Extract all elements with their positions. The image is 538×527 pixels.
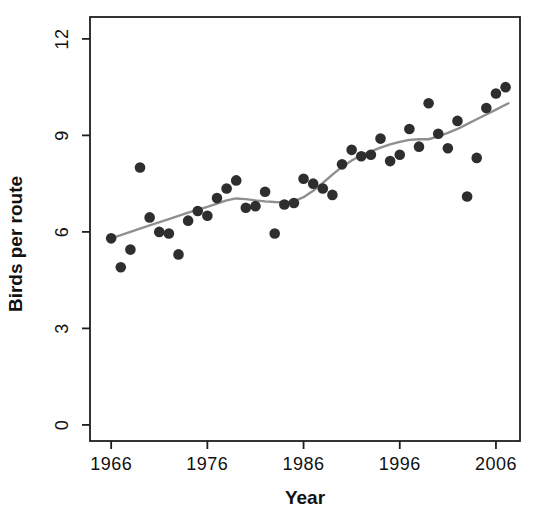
plot-frame	[90, 17, 520, 441]
data-point	[144, 212, 155, 223]
data-points	[106, 82, 511, 273]
data-point	[183, 215, 194, 226]
data-point	[289, 198, 300, 209]
data-point	[202, 211, 213, 222]
data-point	[394, 149, 405, 160]
y-axis-title: Birds per route	[5, 176, 26, 312]
data-point	[212, 193, 223, 204]
data-point	[269, 228, 280, 239]
data-point	[115, 262, 126, 273]
data-point	[366, 149, 377, 160]
y-axis: 036912	[52, 28, 90, 430]
data-point	[491, 88, 502, 99]
data-point	[471, 153, 482, 164]
data-point	[135, 162, 146, 173]
data-point	[241, 202, 252, 213]
data-point	[375, 133, 386, 144]
trend-line	[111, 103, 508, 238]
data-point	[414, 141, 425, 152]
data-point	[154, 227, 165, 238]
y-tick-label: 12	[52, 28, 72, 49]
x-tick-label: 1966	[90, 454, 132, 474]
x-tick-label: 2006	[475, 454, 517, 474]
data-point	[231, 175, 242, 186]
y-tick-label: 3	[52, 323, 72, 334]
data-point	[433, 128, 444, 139]
data-point	[298, 174, 309, 185]
x-axis-title: Year	[285, 487, 326, 508]
data-point	[385, 156, 396, 167]
data-point	[192, 206, 203, 217]
data-point	[356, 151, 367, 162]
data-point	[221, 183, 232, 194]
data-point	[327, 190, 338, 201]
bird-abundance-figure: 19661976198619962006 036912 Year Birds p…	[0, 0, 538, 527]
data-point	[125, 244, 136, 255]
data-point	[250, 201, 261, 212]
data-point	[404, 124, 415, 135]
data-point	[481, 103, 492, 114]
lowess-curve	[111, 103, 508, 238]
data-point	[279, 199, 290, 210]
data-point	[452, 116, 463, 127]
x-tick-label: 1976	[186, 454, 228, 474]
data-point	[346, 145, 357, 156]
data-point	[317, 183, 328, 194]
y-tick-label: 0	[52, 420, 72, 431]
x-tick-label: 1986	[283, 454, 325, 474]
data-point	[423, 98, 434, 109]
data-point	[337, 159, 348, 170]
data-point	[500, 82, 511, 93]
y-tick-label: 9	[52, 130, 72, 141]
x-axis: 19661976198619962006	[90, 441, 517, 474]
x-tick-label: 1996	[379, 454, 421, 474]
data-point	[106, 233, 117, 244]
plot-frame-rect	[90, 17, 520, 441]
data-point	[462, 191, 473, 202]
scatter-plot: 19661976198619962006 036912 Year Birds p…	[0, 0, 538, 527]
data-point	[260, 186, 271, 197]
data-point	[164, 228, 175, 239]
y-tick-label: 6	[52, 227, 72, 238]
data-point	[308, 178, 319, 189]
data-point	[173, 249, 184, 260]
data-point	[443, 143, 454, 154]
